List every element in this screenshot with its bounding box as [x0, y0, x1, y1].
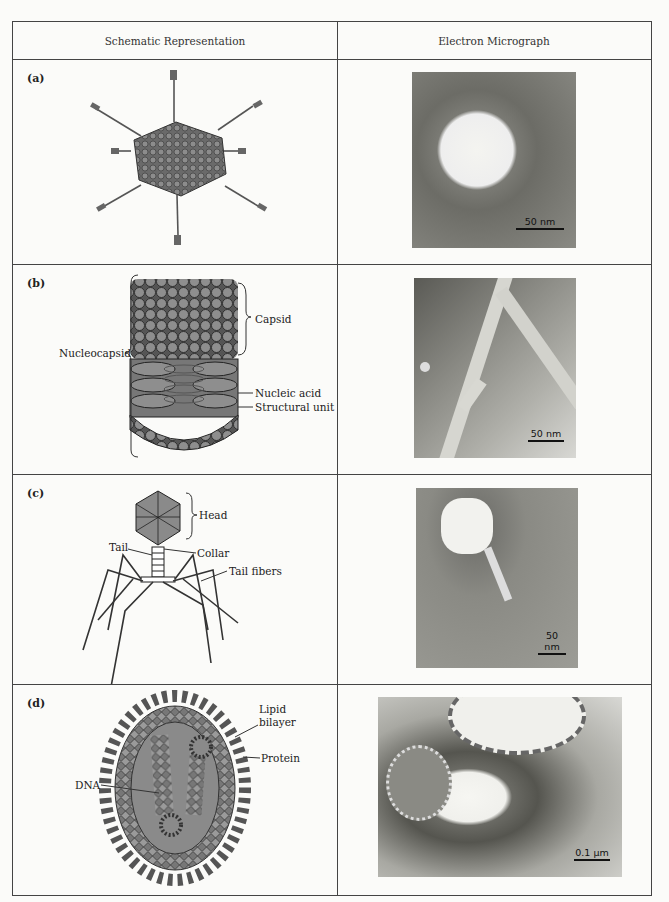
label-dna: DNA	[75, 779, 101, 791]
micrograph-cell-b: 50 nm	[338, 265, 651, 474]
schematic-cell-a: (a)	[13, 60, 337, 264]
panel-label-d: (d)	[27, 697, 45, 710]
label-tail-fibers: Tail fibers	[229, 565, 282, 577]
schematic-cell-c: (c) Head	[13, 475, 337, 684]
label-nucleocapsid: Nucleocapsid	[59, 347, 131, 359]
panel-label-a: (a)	[27, 72, 45, 85]
helical-virus-schematic: Capsid Nucleocapsid Nucleic acid Structu…	[13, 265, 337, 474]
micrograph-cell-a: 50 nm	[338, 60, 651, 264]
label-head: Head	[199, 509, 228, 521]
label-bilayer: bilayer	[259, 716, 297, 728]
label-nucleic-acid: Nucleic acid	[255, 387, 321, 399]
virus-comparison-table: Schematic Representation Electron Microg…	[12, 21, 652, 896]
header-schematic: Schematic Representation	[13, 22, 337, 60]
label-tail: Tail	[109, 541, 129, 553]
label-capsid: Capsid	[255, 313, 292, 325]
micrograph-image-b: 50 nm	[414, 278, 576, 458]
scale-bar-b: 50 nm	[528, 428, 564, 442]
label-lipid: Lipid	[259, 703, 286, 715]
panel-label-b: (b)	[27, 277, 45, 290]
label-protein: Protein	[261, 752, 300, 764]
scale-bar-a: 50 nm	[516, 216, 564, 230]
micrograph-cell-c: 50 nm	[338, 475, 651, 684]
micrograph-cell-d: 0.1 μm	[338, 685, 651, 895]
scale-bar-label: 50 nm	[525, 216, 555, 227]
micrograph-image-c: 50 nm	[416, 488, 578, 668]
micrograph-image-a: 50 nm	[412, 72, 576, 248]
panel-label-c: (c)	[27, 487, 44, 500]
scale-bar-d: 0.1 μm	[574, 847, 610, 861]
label-collar: Collar	[197, 547, 230, 559]
enveloped-virus-schematic: Lipid bilayer Protein DNA	[13, 685, 337, 895]
scale-bar-label: 50 nm	[531, 428, 561, 439]
icosahedral-virus-schematic	[13, 60, 337, 264]
schematic-cell-b: (b) Capsid	[13, 265, 337, 474]
scale-bar-label: 50 nm	[544, 630, 559, 652]
scale-bar-c: 50 nm	[538, 630, 566, 655]
bacteriophage-schematic: Head Tail Collar Tail fibers	[13, 475, 337, 684]
label-structural-unit: Structural unit	[255, 401, 335, 413]
header-micrograph: Electron Micrograph	[337, 22, 651, 60]
schematic-cell-d: (d) Lipid bilayer Protein DNA	[13, 685, 337, 895]
scale-bar-label: 0.1 μm	[575, 847, 608, 858]
micrograph-image-d: 0.1 μm	[378, 697, 622, 877]
